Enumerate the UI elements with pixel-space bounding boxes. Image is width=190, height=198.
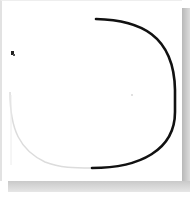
drawing-canvas: [0, 0, 190, 198]
cursor-marker-tail: [13, 54, 15, 56]
faded-curve-segment: [10, 92, 92, 168]
faint-dot: [131, 94, 133, 96]
bold-curve: [92, 19, 175, 168]
